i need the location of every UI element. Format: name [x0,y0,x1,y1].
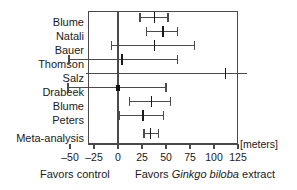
point-estimate-7 [142,110,144,121]
point-estimate-0 [154,12,156,23]
ci-cap-low-8 [143,129,144,138]
point-estimate-2 [154,40,156,51]
favors-prefix: Favors [135,168,172,180]
ci-row-4 [0,68,297,79]
ci-cap-high-5 [165,83,166,92]
forest-plot: BlumeNataliBauerThomsonSalzDrabeekBlumeP… [0,0,297,190]
units-label: [meters] [240,139,278,150]
ci-row-5 [0,82,297,93]
ci-cap-high-1 [177,27,178,36]
point-estimate-6 [151,96,153,107]
x-tick-label-25: 25 [136,152,148,163]
point-estimate-8 [150,128,152,139]
ci-line-3 [69,59,177,60]
ci-cap-high-6 [170,97,171,106]
ci-cap-low-7 [118,111,119,120]
x-tick-25 [141,144,142,149]
ci-cap-high-8 [158,129,159,138]
x-tick-label-0: 0 [115,152,121,163]
point-estimate-4 [225,68,227,79]
ci-cap-low-5 [67,83,68,92]
x-tick-125 [237,144,238,149]
ci-row-7 [0,110,297,121]
ci-cap-high-3 [177,55,178,64]
favors-control-caption: Favors control [40,168,110,180]
x-tick-label-75: 75 [184,152,196,163]
ci-row-0 [0,12,297,23]
point-estimate-1 [162,26,164,37]
ci-row-1 [0,26,297,37]
ci-cap-low-3 [68,55,69,64]
ci-cap-high-2 [194,41,195,50]
ci-row-2 [0,40,297,51]
ci-line-7 [119,115,163,116]
ci-cap-low-1 [146,27,147,36]
x-tick-label-50: 50 [160,152,172,163]
x-tick-label--50: –50 [61,152,79,163]
x-tick-label--25: –25 [85,152,103,163]
favors-treatment-caption: Favors Ginkgo biloba extract [135,168,275,180]
ci-cap-low-2 [111,41,112,50]
ci-line-4 [86,73,247,74]
treatment-name-italic: Ginkgo biloba [172,168,239,180]
ci-cap-low-0 [139,13,140,22]
x-tick--50 [69,144,70,149]
ci-row-6 [0,96,297,107]
x-tick-label-100: 100 [205,152,223,163]
favors-suffix: extract [239,168,275,180]
x-tick--25 [93,144,94,149]
x-tick-100 [213,144,214,149]
ci-cap-high-7 [163,111,164,120]
x-tick-75 [189,144,190,149]
point-estimate-5 [116,85,119,91]
x-axis-line [88,144,238,145]
ci-cap-low-6 [129,97,130,106]
x-tick-0 [117,144,118,149]
x-tick-label-125: 125 [229,152,247,163]
ci-cap-high-0 [167,13,168,22]
ci-row-3 [0,54,297,65]
x-tick-50 [165,144,166,149]
point-estimate-3 [121,54,123,65]
